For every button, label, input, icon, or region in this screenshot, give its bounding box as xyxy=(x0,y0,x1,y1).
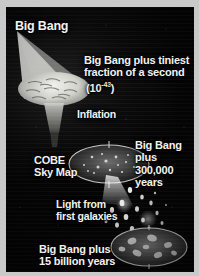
label-cobe-sky-map: COBE Sky Map xyxy=(34,154,77,179)
big-bang-timeline-figure: Big Bang Big Bang plus tiniest fraction … xyxy=(0,0,199,276)
label-inflation: Inflation xyxy=(77,109,116,121)
label-exponent: (10-43) xyxy=(86,81,114,94)
present-universe-galaxy-icon xyxy=(111,225,187,269)
exponent-base: (10 xyxy=(86,82,101,94)
label-big-bang-plus-15b: Big Bang plus 15 billion years xyxy=(39,243,115,268)
label-light-first-galaxies: Light from first galaxies xyxy=(56,199,117,223)
exponent-power: -43 xyxy=(101,81,111,88)
label-big-bang-plus-300000: Big Bang plus 300,000 years xyxy=(135,139,182,188)
label-tiniest-fraction: Big Bang plus tiniest fraction of a seco… xyxy=(84,54,189,79)
label-big-bang: Big Bang xyxy=(15,19,68,33)
exponent-close: ) xyxy=(111,82,114,94)
inflation-cone-icon xyxy=(17,31,90,147)
illustration-plate: Big Bang Big Bang plus tiniest fraction … xyxy=(6,7,194,272)
